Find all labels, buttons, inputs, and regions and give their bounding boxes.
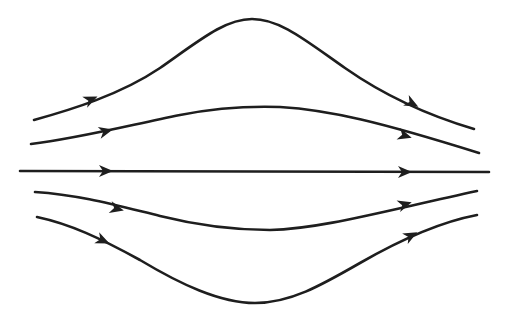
flow-line [20,171,489,172]
arrowhead-icon [402,227,420,244]
streamline-bottom-outer [37,215,477,303]
flow-line [31,107,479,153]
streamline-center [20,165,489,178]
streamline-diagram [0,0,507,322]
arrowhead-icon [94,232,112,249]
flow-line [35,191,477,230]
streamline-bottom-inner [35,191,477,230]
flow-line [37,215,477,303]
streamline-top-outer [34,19,474,129]
flow-line [34,19,474,129]
streamline-top-inner [31,107,479,153]
